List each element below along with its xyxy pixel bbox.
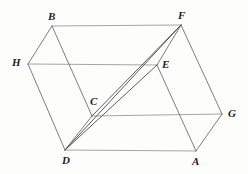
vertex-label-a: A xyxy=(192,156,199,167)
edge-BC xyxy=(52,26,92,116)
vertex-label-h: H xyxy=(12,57,21,68)
edge-FG xyxy=(181,25,222,114)
vertex-label-b: B xyxy=(48,11,55,22)
edge-HD xyxy=(28,64,65,150)
geometry-diagram-canvas xyxy=(0,0,248,174)
edge-CG xyxy=(92,114,222,116)
edge-DA xyxy=(65,150,196,151)
edge-HE xyxy=(28,64,157,65)
edge-BH xyxy=(28,26,52,64)
diagonal-DF xyxy=(65,25,181,150)
edge-EA xyxy=(157,65,196,151)
diagonals-layer xyxy=(65,25,181,150)
edge-CD xyxy=(65,116,92,150)
diagonal-DE xyxy=(65,65,157,150)
vertex-label-g: G xyxy=(228,108,236,119)
vertex-label-f: F xyxy=(178,10,185,21)
vertex-label-c: C xyxy=(90,96,97,107)
edges-layer xyxy=(28,25,222,151)
edge-BF xyxy=(52,25,181,26)
edge-AG xyxy=(196,114,222,151)
geometry-figure: BFHECGDA xyxy=(0,0,248,174)
vertex-label-e: E xyxy=(162,59,169,70)
vertex-label-d: D xyxy=(62,155,70,166)
diagonal-CF xyxy=(92,25,181,116)
